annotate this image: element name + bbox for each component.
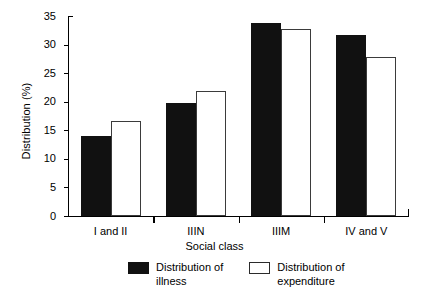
bar-illness: [166, 103, 196, 216]
x-axis-tick-mark: [153, 216, 154, 223]
legend-entry: Distribution of expenditure: [249, 261, 344, 288]
x-axis-title: Social class: [0, 240, 429, 252]
legend-swatch-open-icon: [249, 262, 270, 274]
bar-illness: [251, 23, 281, 216]
legend-label: Distribution of illness: [156, 261, 223, 288]
bar-illness: [336, 35, 366, 216]
plot-area: [68, 16, 409, 216]
y-axis-tick-label: 5: [32, 182, 56, 193]
y-axis-tick-label: 15: [32, 125, 56, 136]
chart-legend: Distribution of illnessDistribution of e…: [128, 261, 345, 288]
x-axis-tick-mark: [324, 216, 325, 223]
y-axis-tick-label: 35: [32, 11, 56, 22]
legend-label: Distribution of expenditure: [277, 261, 344, 288]
y-axis-title: Distribution (%): [20, 51, 32, 191]
legend-swatch-filled-icon: [128, 262, 149, 274]
bar-chart-figure: Distribution (%) 05101520253035 I and II…: [0, 0, 429, 300]
y-axis-tick-label: 30: [32, 39, 56, 50]
x-axis-tick-label: I and II: [68, 225, 153, 237]
bar-expenditure: [111, 121, 141, 216]
x-axis-tick-label: IIIN: [153, 225, 238, 237]
y-axis-tick-mark: [64, 216, 69, 217]
x-axis-tick-mark: [239, 216, 240, 223]
y-axis-tick-label: 25: [32, 68, 56, 79]
bar-expenditure: [281, 29, 311, 216]
y-axis-tick-label: 0: [32, 211, 56, 222]
y-axis-tick-label: 10: [32, 153, 56, 164]
x-axis-tick-label: IV and V: [324, 225, 409, 237]
bar-illness: [81, 136, 111, 216]
x-axis-tick-label: IIIM: [239, 225, 324, 237]
bar-expenditure: [196, 91, 226, 216]
legend-entry: Distribution of illness: [128, 261, 223, 288]
bar-expenditure: [366, 57, 396, 216]
y-axis-tick-label: 20: [32, 96, 56, 107]
